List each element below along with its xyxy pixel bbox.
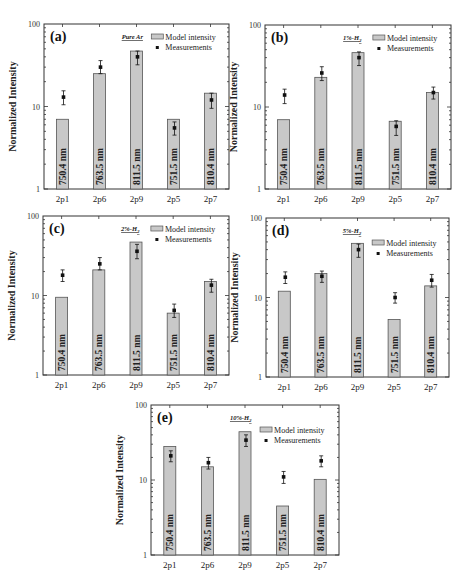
y-tick-label: 1	[258, 373, 262, 382]
legend-measurement-label: Measurements	[165, 235, 212, 244]
wavelength-label: 811.5 nm	[354, 148, 364, 185]
condition-title: 5%-H2	[343, 227, 362, 236]
x-tick-label: 2p1	[55, 380, 69, 390]
measurement-point	[284, 275, 288, 279]
measurement-point	[244, 438, 248, 442]
wavelength-label: 763.5 nm	[95, 148, 105, 185]
x-tick-label: 2p1	[278, 382, 292, 392]
wavelength-label: 750.4 nm	[165, 514, 175, 551]
legend-point-swatch	[156, 46, 159, 49]
wavelength-label: 763.5 nm	[316, 336, 326, 373]
legend-bar-swatch	[151, 34, 163, 39]
measurement-point	[319, 459, 323, 463]
x-tick-label: 2p6	[314, 194, 328, 204]
measurement-point	[282, 475, 286, 479]
measurement-point	[98, 262, 102, 266]
measurement-point	[393, 296, 397, 300]
measurement-point	[207, 461, 211, 465]
chart-panel-a: 110100Normalized Intensity750.4 nm2p1763…	[4, 12, 237, 217]
y-tick-label: 10	[31, 292, 39, 301]
legend-bar-swatch	[373, 35, 385, 40]
wavelength-label: 811.5 nm	[241, 514, 251, 551]
wavelength-label: 810.4 nm	[428, 148, 438, 185]
wavelength-label: 811.5 nm	[132, 148, 142, 185]
x-tick-label: 2p7	[204, 380, 218, 390]
panel-letter: (a)	[50, 29, 67, 45]
wavelength-label: 750.4 nm	[280, 336, 290, 373]
y-tick-label: 100	[250, 214, 262, 223]
x-tick-label: 2p6	[92, 380, 106, 390]
wavelength-label: 810.4 nm	[316, 514, 326, 551]
x-tick-label: 2p7	[426, 194, 440, 204]
x-tick-label: 2p9	[130, 194, 144, 204]
chart-panel-e: 110100Normalized Intensity750.4 nm2p1763…	[111, 393, 347, 578]
legend-bar-swatch	[372, 240, 384, 245]
legend-model-label: Model intensity	[165, 33, 215, 42]
y-axis-label: Normalized Intensity	[229, 252, 240, 342]
legend-measurement-label: Measurements	[386, 249, 433, 258]
x-tick-label: 2p7	[313, 560, 327, 570]
y-tick-label: 100	[28, 20, 40, 29]
wavelength-label: 811.5 nm	[353, 336, 363, 373]
x-tick-label: 2p6	[201, 560, 215, 570]
y-tick-label: 10	[254, 294, 262, 303]
wavelength-label: 751.5 nm	[278, 514, 288, 551]
measurement-point	[357, 56, 361, 60]
x-tick-label: 2p6	[314, 382, 328, 392]
measurement-point	[136, 55, 140, 59]
chart-panel-b: 110100Normalized Intensity750.4 nm2p1763…	[225, 13, 459, 217]
measurement-point	[320, 71, 324, 75]
wavelength-label: 750.4 nm	[57, 334, 67, 371]
wavelength-label: 811.5 nm	[132, 334, 142, 371]
wavelength-label: 751.5 nm	[169, 334, 179, 371]
measurement-point	[62, 95, 66, 99]
x-tick-label: 2p1	[277, 194, 291, 204]
measurement-point	[357, 248, 361, 252]
wavelength-label: 751.5 nm	[169, 148, 179, 185]
panel-letter: (e)	[157, 410, 173, 426]
y-tick-label: 1	[35, 371, 39, 380]
y-tick-label: 1	[36, 185, 40, 194]
legend-model-label: Model intensity	[387, 34, 437, 43]
y-tick-label: 100	[27, 212, 39, 221]
wavelength-label: 763.5 nm	[94, 334, 104, 371]
measurement-point	[283, 93, 287, 97]
wavelength-label: 763.5 nm	[203, 514, 213, 551]
legend-model-label: Model intensity	[386, 239, 436, 248]
chart-panel-c: 110100Normalized Intensity750.4 nm2p1763…	[3, 204, 237, 403]
y-axis-label: Normalized Intensity	[114, 435, 125, 525]
measurement-point	[99, 65, 103, 69]
chart-panel-d: 110100Normalized Intensity750.4 nm2p1763…	[226, 206, 457, 405]
wavelength-label: 810.4 nm	[206, 334, 216, 371]
y-tick-label: 1	[143, 551, 147, 560]
legend-point-swatch	[377, 47, 380, 50]
x-tick-label: 2p7	[204, 194, 218, 204]
condition-title: 2%-H2	[120, 225, 140, 234]
wavelength-label: 750.4 nm	[279, 148, 289, 185]
measurement-point	[210, 283, 214, 287]
panel-letter: (d)	[272, 223, 289, 239]
legend-model-label: Model intensity	[165, 225, 215, 234]
y-tick-label: 100	[249, 21, 261, 30]
y-tick-label: 10	[253, 103, 261, 112]
panel-letter: (c)	[49, 221, 65, 237]
condition-title: 1%-H2	[343, 34, 362, 43]
y-tick-label: 1	[257, 185, 261, 194]
measurement-point	[320, 274, 324, 278]
condition-title: Pure Ar	[122, 33, 144, 40]
wavelength-label: 810.4 nm	[206, 148, 216, 185]
wavelength-label: 751.5 nm	[391, 148, 401, 185]
x-tick-label: 2p1	[56, 194, 70, 204]
condition-title: 10%-H2	[230, 414, 252, 423]
measurement-point	[432, 91, 436, 95]
y-tick-label: 10	[139, 476, 147, 485]
wavelength-label: 810.4 nm	[426, 336, 436, 373]
x-tick-label: 2p5	[276, 560, 290, 570]
legend-point-swatch	[377, 252, 380, 255]
legend-bar-swatch	[151, 226, 163, 231]
wavelength-label: 763.5 nm	[316, 148, 326, 185]
legend-measurement-label: Measurements	[274, 436, 321, 445]
x-tick-label: 2p1	[163, 560, 177, 570]
wavelength-label: 750.4 nm	[58, 148, 68, 185]
y-axis-label: Normalized Intensity	[6, 250, 17, 340]
